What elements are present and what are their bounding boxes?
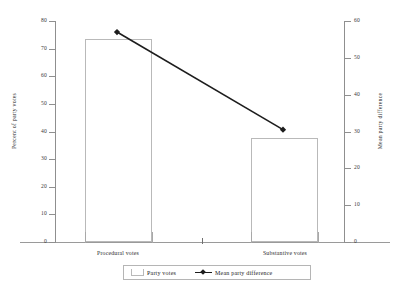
legend-item-party-votes[interactable]: Party votes [131,266,176,279]
line-series-layer [0,0,402,293]
chart-legend: Party votes Mean party difference [123,265,311,280]
chart-figure: 01020304050607080 0102030405060 Percent … [0,0,402,293]
legend-label-party-votes: Party votes [147,270,176,276]
legend-line-swatch-icon [195,269,212,276]
legend-bar-swatch-icon [131,269,144,276]
line-path-mean-party-difference [117,32,283,130]
legend-item-mean-party-difference[interactable]: Mean party difference [195,266,272,279]
legend-label-mean-party-difference: Mean party difference [215,270,272,276]
